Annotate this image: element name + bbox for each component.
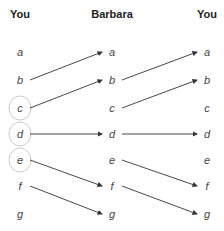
letter-barbara-g: g (109, 208, 115, 220)
letter-right-you-f: f (205, 180, 208, 192)
letter-right-you-c: c (204, 102, 210, 114)
letter-barbara-e: e (109, 154, 115, 166)
letter-left-you-e: e (17, 154, 23, 166)
letter-right-you-a: a (204, 46, 210, 58)
letter-left-you-d: d (17, 128, 23, 140)
letter-right-you-g: g (204, 208, 210, 220)
letter-left-you-f: f (18, 180, 21, 192)
arrow-left-f-to-g (30, 186, 102, 214)
arrow-right-e-to-f (122, 160, 197, 186)
letter-right-you-e: e (204, 154, 210, 166)
letter-left-you-c: c (17, 102, 23, 114)
letter-right-you-b: b (204, 74, 210, 86)
letter-right-you-d: d (204, 128, 210, 140)
arrow-right-b-to-a (122, 52, 197, 80)
letter-barbara-c: c (109, 102, 115, 114)
arrow-left-b-to-a (30, 52, 102, 80)
arrow-right-c-to-b (122, 80, 197, 108)
letter-left-you-b: b (17, 74, 23, 86)
arrow-right-f-to-g (122, 186, 197, 214)
arrow-left-e-to-f (30, 160, 102, 186)
preference-mapping-diagram: You Barbara You abcdefgabcdefgabcdefg (0, 0, 224, 231)
letter-barbara-b: b (109, 74, 115, 86)
arrow-left-c-to-b (30, 80, 102, 108)
letter-left-you-a: a (17, 46, 23, 58)
letter-barbara-f: f (110, 180, 113, 192)
arrows-layer (0, 0, 224, 231)
letter-barbara-a: a (109, 46, 115, 58)
letter-left-you-g: g (17, 208, 23, 220)
letter-barbara-d: d (109, 128, 115, 140)
